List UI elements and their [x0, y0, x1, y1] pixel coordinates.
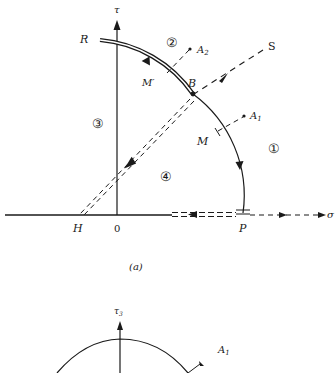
sigma-load-arrow-icon [279, 212, 287, 218]
label-m-prime: M′ [141, 77, 155, 88]
region-label-3: ③ [92, 116, 104, 131]
figure-b: τ3 A1 [57, 306, 230, 373]
tau-axis-label: τ [114, 4, 120, 15]
figure-a: τ σ [5, 4, 335, 272]
label-p: P [238, 222, 247, 235]
a1-point-marker [242, 114, 245, 117]
path-s-arrow-icon [219, 73, 228, 83]
label-a1: A1 [249, 110, 262, 123]
label-m: M [196, 135, 209, 148]
arc-segment-b-p [193, 94, 244, 213]
a1-tick [215, 128, 220, 136]
region-label-4: ④ [160, 169, 172, 184]
yield-surface-arc [57, 339, 188, 373]
label-origin: 0 [114, 223, 120, 234]
arc-arrow-m-icon [236, 161, 244, 170]
label-h: H [72, 222, 83, 235]
label-b: B [187, 77, 196, 90]
label-a2: A2 [196, 44, 209, 57]
sigma-axis-arrow-icon [318, 212, 326, 218]
label-s: S [268, 40, 276, 53]
sigma-axis-label: σ [327, 209, 335, 220]
a2-point-marker [188, 47, 191, 50]
a1-leader-line [188, 364, 200, 373]
radial-a2 [167, 50, 189, 73]
region-label-2: ② [166, 35, 178, 50]
tau3-axis-arrow-icon [117, 321, 123, 330]
tau-axis-arrow-icon [114, 20, 121, 30]
region-label-1: ① [268, 141, 280, 156]
stress-path-diagram: τ σ [0, 0, 335, 373]
caption-a: (a) [129, 261, 143, 272]
label-r: R [79, 33, 88, 46]
tau3-axis-label: τ3 [114, 306, 123, 317]
a1-leader-arrow-icon [199, 361, 204, 366]
label-a1-b: A1 [217, 344, 230, 357]
